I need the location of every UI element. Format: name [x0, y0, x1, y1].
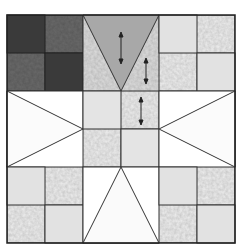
- center-four-patch: [83, 91, 159, 167]
- corner-bottom-left: [7, 167, 83, 243]
- corner-top-right: [159, 15, 235, 91]
- middle-left-unit: [7, 91, 83, 167]
- middle-right-unit: [159, 91, 235, 167]
- corner-bottom-right: [159, 167, 235, 243]
- quilt-block: [0, 0, 242, 250]
- bottom-center-unit: [83, 167, 159, 243]
- corner-top-left: [7, 15, 83, 91]
